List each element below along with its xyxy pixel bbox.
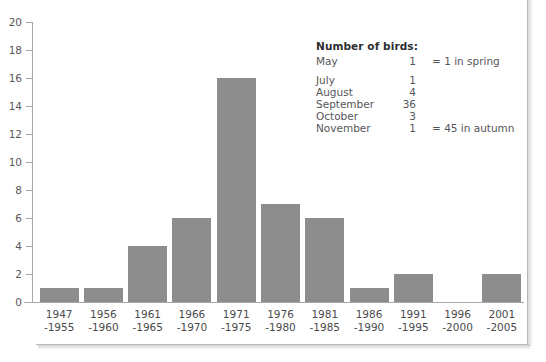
legend-month-label: November (316, 122, 390, 134)
x-axis-category-label: 1976 -1980 (258, 308, 302, 334)
legend-month-label: September (316, 98, 390, 110)
legend-count-value: 1 (390, 74, 416, 86)
legend-month-label: October (316, 110, 390, 122)
bar (40, 288, 79, 302)
bar (350, 288, 389, 302)
x-axis-category-label: 1966 -1970 (170, 308, 214, 334)
legend-count-value: 1 (390, 55, 416, 67)
bar (394, 274, 433, 302)
x-axis-category-label: 1981 -1985 (303, 308, 347, 334)
legend-row: May1= 1 in spring (316, 55, 531, 67)
bar (84, 288, 123, 302)
legend-count-value: 4 (390, 86, 416, 98)
legend-month-label: May (316, 55, 390, 67)
legend-count-value: 36 (390, 98, 416, 110)
legend-rows: May1= 1 in springJuly1August4September36… (316, 55, 531, 134)
x-axis-category-label: 1996 -2000 (435, 308, 479, 334)
legend-count-value: 1 (390, 122, 416, 134)
x-axis-category-label: 1971 -1975 (214, 308, 258, 334)
bar (217, 78, 256, 302)
legend-month-label: July (316, 74, 390, 86)
bar (482, 274, 521, 302)
x-axis-category-label: 1986 -1990 (347, 308, 391, 334)
x-axis-category-label: 1961 -1965 (126, 308, 170, 334)
legend-row: November1= 45 in autumn (316, 122, 531, 134)
bar (305, 218, 344, 302)
bar (261, 204, 300, 302)
x-axis-category-label: 2001 -2005 (480, 308, 524, 334)
legend-title: Number of birds: (316, 40, 531, 52)
bar (128, 246, 167, 302)
x-axis-category-label: 1991 -1995 (391, 308, 435, 334)
legend-count-value: 3 (390, 110, 416, 122)
legend-row: October3 (316, 110, 531, 122)
legend-block: Number of birds: May1= 1 in springJuly1A… (316, 40, 531, 134)
x-axis-category-label: 1956 -1960 (81, 308, 125, 334)
bar (172, 218, 211, 302)
legend-month-label: August (316, 86, 390, 98)
x-axis-category-label: 1947 -1955 (37, 308, 81, 334)
chart-page: 02468101214161820 1947 -19551956 -196019… (0, 0, 546, 362)
legend-note: = 1 in spring (432, 55, 537, 67)
legend-row: September36 (316, 98, 531, 110)
legend-note: = 45 in autumn (432, 122, 537, 134)
legend-row: August4 (316, 86, 531, 98)
legend-row: July1 (316, 74, 531, 86)
